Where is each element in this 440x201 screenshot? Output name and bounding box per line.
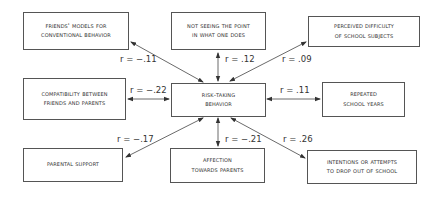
node-compat-line2: friends and parents [44, 99, 106, 109]
node-notseeing-line2: in what one does [192, 31, 245, 41]
node-intentions: Intentions or attempts to drop out of sc… [307, 150, 417, 184]
node-friends: Friends' models for conventional behavio… [23, 12, 129, 50]
r-label-notseeing: r = .12 [225, 54, 255, 64]
node-repeated-line1: Repeated [350, 90, 377, 100]
node-risk-center: Risk-taking behavior [171, 83, 266, 117]
r-label-perceived: r = .09 [282, 54, 312, 64]
node-compat-line1: Compatibility between [41, 90, 107, 100]
r-label-friends: r = −.11 [120, 54, 157, 64]
node-risk-line1: Risk-taking [202, 91, 235, 101]
node-perceived-line1: Perceived difficulty [334, 22, 394, 32]
node-parental-line1: Parental support [47, 160, 99, 170]
node-intentions-line1: Intentions or attempts [327, 158, 397, 168]
node-affection-line2: towards parents [192, 166, 244, 176]
node-affection: Affection towards parents [170, 148, 265, 183]
node-notseeing-line1: Not seeing the point [187, 22, 250, 32]
node-risk-line2: behavior [205, 100, 232, 110]
r-label-intentions: r = .26 [283, 134, 313, 144]
node-perceived-line2: of school subjects [335, 32, 394, 42]
r-label-parental: r = −.17 [117, 134, 154, 144]
r-label-compat: r = −.22 [130, 85, 167, 95]
node-friends-line2: conventional behavior [41, 31, 111, 41]
node-compat: Compatibility between friends and parent… [23, 78, 126, 120]
r-label-repeated: r = .11 [280, 85, 310, 95]
node-friends-line1: Friends' models for [45, 22, 106, 32]
node-perceived: Perceived difficulty of school subjects [308, 16, 420, 47]
node-repeated: Repeated school years [322, 82, 405, 117]
node-repeated-line2: school years [343, 100, 384, 110]
node-affection-line1: Affection [203, 156, 232, 166]
r-label-affection: r = −.21 [225, 134, 262, 144]
node-intentions-line2: to drop out of school [327, 167, 397, 177]
node-notseeing: Not seeing the point in what one does [171, 12, 266, 50]
node-parental: Parental support [23, 148, 123, 182]
